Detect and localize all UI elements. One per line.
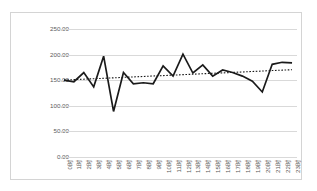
x-axis-tick-label: 9时 bbox=[156, 160, 162, 169]
x-axis-tick-label: 17时 bbox=[235, 160, 241, 173]
x-axis-tick-label: 19时 bbox=[255, 160, 261, 173]
x-axis-tick-label: 0时 bbox=[67, 160, 73, 169]
x-axis-tick-label: 1时 bbox=[76, 160, 82, 169]
x-axis-tick-label: 11时 bbox=[176, 160, 182, 172]
plot-area bbox=[59, 29, 297, 157]
x-axis-tick-label: 23时 bbox=[295, 160, 301, 173]
x-axis-tick-label: 15时 bbox=[215, 160, 221, 173]
x-axis-tick-label: 13时 bbox=[195, 160, 201, 173]
x-axis-tick-label: 14时 bbox=[205, 160, 211, 173]
x-axis-tick-label: 22时 bbox=[285, 160, 291, 173]
x-axis-tick-label: 12时 bbox=[186, 160, 192, 173]
x-axis-tick-label: 21时 bbox=[275, 160, 281, 173]
x-axis-tick-label: 10时 bbox=[166, 160, 172, 173]
x-axis-tick-label: 20时 bbox=[265, 160, 271, 173]
gridline bbox=[59, 157, 297, 158]
chart-plot-wrapper: 0.0050.00100.00150.00200.00250.00 0时1时2时… bbox=[11, 13, 303, 181]
x-axis-tick-label: 16时 bbox=[225, 160, 231, 173]
x-axis-tick-label: 4时 bbox=[106, 160, 112, 169]
value-line-path bbox=[64, 54, 292, 111]
x-axis-tick-label: 6时 bbox=[126, 160, 132, 169]
x-axis-tick-label: 3时 bbox=[96, 160, 102, 169]
x-axis-tick-label: 8时 bbox=[146, 160, 152, 169]
x-axis-tick-label: 2时 bbox=[86, 160, 92, 169]
x-axis-tick-label: 18时 bbox=[245, 160, 251, 173]
data-series-svg bbox=[59, 29, 297, 157]
chart-frame: 0.0050.00100.00150.00200.00250.00 0时1时2时… bbox=[10, 12, 302, 180]
x-axis-tick-label: 5时 bbox=[116, 160, 122, 169]
x-axis-tick-label: 7时 bbox=[136, 160, 142, 169]
